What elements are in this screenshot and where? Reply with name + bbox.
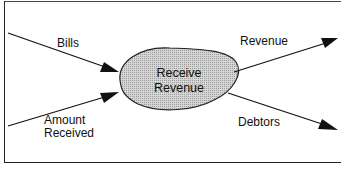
debtors-label: Debtors [238, 116, 280, 129]
process-label-line1: Receive [139, 66, 219, 81]
bills-label: Bills [57, 37, 79, 50]
revenue-label: Revenue [240, 35, 288, 48]
process-label-line2: Revenue [139, 81, 219, 96]
amount-received-label-line2: Received [44, 127, 94, 140]
